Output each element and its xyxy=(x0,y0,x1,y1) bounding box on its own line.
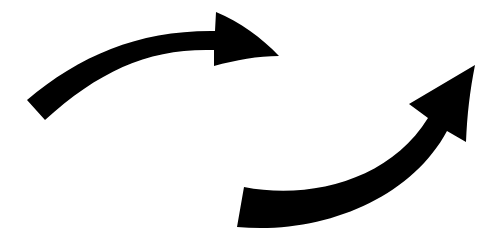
curved-arrow-up-right-icon xyxy=(237,65,475,228)
curved-arrow-right-icon xyxy=(27,12,279,120)
arrows-graphic xyxy=(0,0,491,249)
canvas xyxy=(0,0,491,249)
